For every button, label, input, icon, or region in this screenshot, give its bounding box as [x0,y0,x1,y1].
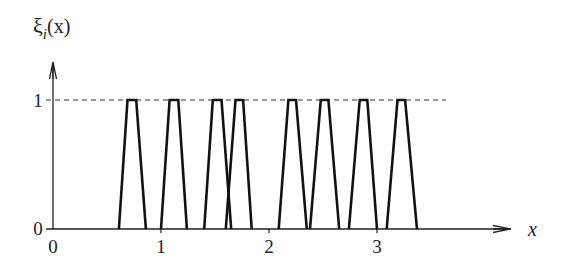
x-tick-label: 3 [372,236,382,257]
trapezoid-series [387,100,417,229]
trapezoid-series [161,100,187,229]
x-tick-label: 1 [156,236,166,257]
y-axis-arrow-icon [50,62,57,79]
trapezoid-series [310,100,339,229]
x-axis-arrow-icon [493,226,511,233]
y-axis-label-arg: (x) [47,15,70,38]
y-tick-label: 0 [33,218,43,239]
x-axis-label: x [527,218,537,240]
chart: ξi(x) 0 1 2 3 0 1 x [0,0,566,269]
x-tick-label: 0 [48,236,58,257]
series-layer [119,100,417,229]
trapezoid-series [119,100,146,229]
y-axis-label: ξi(x) [33,13,70,42]
trapezoid-series [279,100,307,229]
y-tick-label: 1 [33,90,43,111]
axes [46,62,511,233]
x-tick-label: 2 [264,236,274,257]
y-axis-label-main: ξ [33,13,43,38]
trapezoid-series [349,100,377,229]
